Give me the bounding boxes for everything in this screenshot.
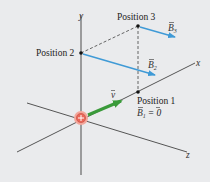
position-2-dot — [79, 51, 83, 55]
x-axis-label: x — [195, 58, 201, 68]
svg-text:B3: B3 — [168, 23, 177, 34]
position-1-dot — [136, 90, 140, 94]
position-3-dot — [136, 24, 140, 28]
z-axis-label: z — [185, 150, 190, 160]
dashed-line-pos2-pos3 — [81, 26, 138, 53]
b1-label: B1= 0 — [137, 108, 162, 120]
svg-text:v: v — [111, 90, 116, 100]
magnetic-field-diagram: y x z Position 3 Position 2 Position 1 B… — [0, 0, 210, 182]
b3-label: B3 — [168, 23, 177, 35]
z-axis — [27, 103, 187, 152]
position-3-label: Position 3 — [117, 12, 156, 22]
position-1-label: Position 1 — [137, 96, 176, 106]
field-vector-b2 — [83, 54, 155, 75]
svg-text:B1= 0: B1= 0 — [137, 108, 162, 119]
velocity-label: v — [111, 90, 116, 100]
velocity-vector — [88, 101, 121, 115]
y-axis-label: y — [78, 11, 84, 21]
position-2-label: Position 2 — [36, 48, 75, 58]
positive-charge-icon — [74, 111, 88, 125]
b2-label: B2 — [148, 60, 157, 72]
svg-text:B2: B2 — [148, 60, 157, 71]
